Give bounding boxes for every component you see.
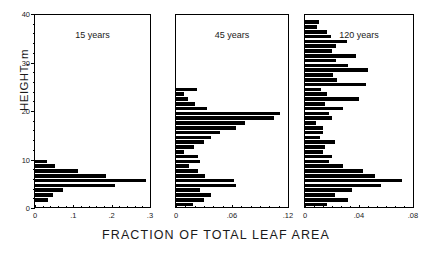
x-tick-minor bbox=[314, 206, 315, 208]
bar bbox=[305, 25, 317, 29]
bar bbox=[176, 102, 195, 106]
bar bbox=[305, 155, 332, 159]
bar bbox=[176, 112, 280, 116]
bar bbox=[305, 112, 329, 116]
bar bbox=[305, 59, 336, 63]
x-tick-mark bbox=[112, 205, 113, 208]
x-tick-minor bbox=[395, 206, 396, 208]
x-tick-minor bbox=[50, 206, 51, 208]
x-tick-minor bbox=[185, 206, 186, 208]
x-tick-minor bbox=[204, 206, 205, 208]
x-tick-label: .04 bbox=[349, 211, 369, 220]
bar bbox=[305, 30, 327, 34]
bar bbox=[176, 184, 236, 188]
bar bbox=[305, 73, 333, 77]
bar bbox=[35, 169, 78, 173]
bar-group bbox=[305, 15, 413, 207]
bar bbox=[176, 160, 200, 164]
y-axis-label: HEIGHT, m bbox=[18, 20, 30, 140]
bar bbox=[305, 64, 348, 68]
bar bbox=[305, 88, 321, 92]
bar bbox=[305, 83, 366, 87]
x-axis-label: FRACTION OF TOTAL LEAF AREA bbox=[0, 228, 432, 242]
bar bbox=[176, 193, 211, 197]
y-tick-mark bbox=[31, 208, 35, 209]
x-tick-minor bbox=[135, 206, 136, 208]
bar bbox=[305, 92, 327, 96]
x-tick-mark bbox=[232, 205, 233, 208]
chart-panel: 45 years bbox=[175, 14, 289, 208]
x-tick-minor bbox=[377, 206, 378, 208]
bar bbox=[305, 20, 319, 24]
x-tick-minor bbox=[368, 206, 369, 208]
x-tick-label: 0 bbox=[295, 211, 315, 220]
bar bbox=[176, 155, 198, 159]
bar bbox=[35, 160, 47, 164]
x-tick-minor bbox=[323, 206, 324, 208]
bar bbox=[305, 116, 332, 120]
x-tick-minor bbox=[58, 206, 59, 208]
bar bbox=[305, 198, 348, 202]
bar bbox=[305, 54, 356, 58]
x-tick-minor bbox=[223, 206, 224, 208]
x-tick-label: .08 bbox=[403, 211, 423, 220]
bar bbox=[35, 174, 106, 178]
bar bbox=[176, 169, 198, 173]
x-tick-label: .06 bbox=[222, 211, 242, 220]
bar bbox=[35, 198, 48, 202]
x-tick-minor bbox=[350, 206, 351, 208]
x-tick-mark bbox=[176, 205, 177, 208]
x-tick-mark bbox=[305, 205, 306, 208]
bar bbox=[305, 188, 352, 192]
x-tick-minor bbox=[241, 206, 242, 208]
y-tick-label: 10 bbox=[14, 156, 30, 165]
bar bbox=[305, 169, 363, 173]
bar bbox=[305, 102, 325, 106]
x-tick-minor bbox=[119, 206, 120, 208]
bar bbox=[176, 174, 205, 178]
bar bbox=[35, 184, 115, 188]
y-tick-label: 30 bbox=[14, 59, 30, 68]
bar bbox=[305, 126, 323, 130]
x-tick-minor bbox=[279, 206, 280, 208]
bar bbox=[305, 136, 320, 140]
bar bbox=[305, 179, 402, 183]
x-tick-label: 0 bbox=[25, 211, 45, 220]
x-tick-mark bbox=[288, 205, 289, 208]
x-tick-minor bbox=[332, 206, 333, 208]
bar bbox=[176, 188, 200, 192]
x-tick-mark bbox=[73, 205, 74, 208]
x-tick-minor bbox=[269, 206, 270, 208]
x-tick-minor bbox=[195, 206, 196, 208]
bar bbox=[176, 97, 188, 101]
bar bbox=[305, 160, 329, 164]
bar bbox=[305, 131, 323, 135]
bar bbox=[305, 193, 335, 197]
chart-panel: 120 years bbox=[304, 14, 414, 208]
x-tick-label: 0 bbox=[166, 211, 186, 220]
bar bbox=[176, 140, 204, 144]
x-tick-label: .1 bbox=[63, 211, 83, 220]
x-tick-minor bbox=[404, 206, 405, 208]
bar bbox=[176, 107, 207, 111]
bar-group bbox=[176, 15, 288, 207]
bar bbox=[176, 116, 274, 120]
bar bbox=[305, 78, 337, 82]
x-tick-minor bbox=[96, 206, 97, 208]
bar bbox=[176, 145, 194, 149]
bar bbox=[305, 68, 368, 72]
x-tick-minor bbox=[104, 206, 105, 208]
bar bbox=[35, 188, 63, 192]
x-tick-mark bbox=[359, 205, 360, 208]
bar bbox=[176, 150, 184, 154]
x-tick-mark bbox=[413, 205, 414, 208]
y-tick-label: 40 bbox=[14, 10, 30, 19]
x-tick-minor bbox=[251, 206, 252, 208]
x-tick-mark bbox=[150, 205, 151, 208]
x-tick-minor bbox=[386, 206, 387, 208]
x-tick-label: .3 bbox=[140, 211, 160, 220]
bar bbox=[305, 140, 335, 144]
bar bbox=[305, 35, 331, 39]
bar bbox=[305, 184, 381, 188]
x-tick-minor bbox=[43, 206, 44, 208]
